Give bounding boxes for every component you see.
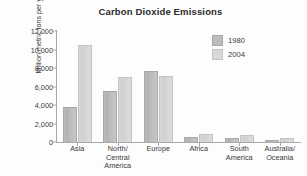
chart-title: Carbon Dioxide Emissions — [0, 6, 307, 17]
x-tick-label: SouthAmerica — [219, 145, 260, 162]
legend-item[interactable]: 1980 — [212, 35, 245, 46]
bar-1980[interactable] — [103, 91, 117, 142]
bar-pair — [57, 31, 98, 142]
y-tick-label: 2,000 — [35, 119, 53, 128]
bar-1980[interactable] — [184, 137, 198, 142]
y-tick-label: 6,000 — [35, 82, 53, 91]
y-tick-label: 10,000 — [31, 45, 53, 54]
bar-2004[interactable] — [78, 45, 92, 142]
bar-group — [98, 31, 139, 142]
plot-area: 02,0004,0006,0008,00010,00012,000 — [57, 31, 300, 142]
bar-2004[interactable] — [240, 135, 254, 142]
bar-2004[interactable] — [159, 76, 173, 142]
legend-swatch-icon — [212, 49, 223, 60]
bar-1980[interactable] — [144, 71, 158, 142]
x-tick-label: Asia — [57, 145, 98, 154]
x-axis-line — [56, 142, 301, 143]
chart-figure: Carbon Dioxide Emissions Million metric … — [0, 0, 307, 176]
chart-legend: 19802004 — [212, 35, 245, 63]
x-tick-label: Australia/Oceania — [260, 145, 301, 162]
legend-swatch-icon — [212, 35, 223, 46]
y-tick-label: 4,000 — [35, 101, 53, 110]
bar-1980[interactable] — [265, 140, 279, 142]
legend-label: 1980 — [228, 36, 245, 45]
x-tick-label: Africa — [179, 145, 220, 154]
bar-pair — [98, 31, 139, 142]
bar-pair — [260, 31, 301, 142]
y-tick-label: 12,000 — [31, 27, 53, 36]
y-tick-label: 8,000 — [35, 64, 53, 73]
bar-1980[interactable] — [225, 138, 239, 142]
bar-2004[interactable] — [118, 77, 132, 142]
bar-group — [57, 31, 98, 142]
x-tick-label: North/CentralAmerica — [98, 145, 139, 171]
bar-1980[interactable] — [63, 107, 77, 142]
bar-2004[interactable] — [280, 138, 294, 142]
x-tick-label: Europe — [138, 145, 179, 154]
bar-pair — [138, 31, 179, 142]
bar-2004[interactable] — [199, 134, 213, 142]
bar-group — [260, 31, 301, 142]
bar-group — [138, 31, 179, 142]
legend-label: 2004 — [228, 50, 245, 59]
legend-item[interactable]: 2004 — [212, 49, 245, 60]
